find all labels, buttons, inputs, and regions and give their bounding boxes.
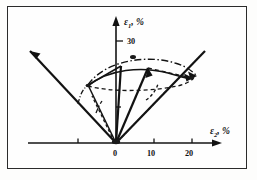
angle-arc-right (146, 84, 158, 100)
figure-canvas: ε1, % ε2, % 30 0 10 20 (0, 0, 257, 180)
fan-ray-left-outer-arrowhead (30, 51, 41, 59)
x-tick-label-0: 0 (113, 149, 117, 158)
y-tick-label-30: 30 (127, 37, 135, 46)
x-axis-label-unit: , % (216, 126, 230, 136)
fan-ray-left-outer (30, 51, 116, 143)
x-tick-label-20: 20 (185, 149, 193, 158)
strain-diagram-plot: ε1, % ε2, % 30 0 10 20 (0, 0, 257, 180)
angle-arc-left (78, 86, 87, 104)
y-axis-arrowhead (112, 16, 119, 26)
y-axis-label-unit: , % (130, 17, 144, 27)
x-axis-label: ε2, % (210, 126, 230, 138)
chord-midright-to-right (148, 68, 192, 78)
speck-envelope-left-corner (86, 84, 91, 88)
speck-right-corner (190, 76, 194, 80)
speck-upper-arc-left (130, 55, 136, 59)
x-tick-label-10: 10 (147, 149, 155, 158)
fan-ray-left-inner (88, 85, 116, 143)
labels-group: ε1, % ε2, % 30 0 10 20 (113, 17, 230, 158)
fan-rays-group (30, 51, 205, 144)
y-axis-label: ε1, % (124, 17, 144, 29)
x-axis-arrowhead (212, 139, 222, 146)
origin-ink-blob (112, 140, 120, 144)
